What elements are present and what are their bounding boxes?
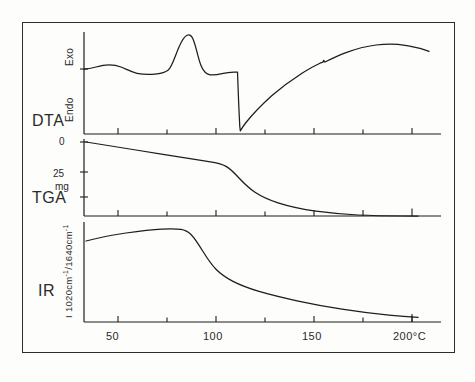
panel-label-ir: IR bbox=[38, 282, 55, 300]
ir-axis-symbol: I 1020cm bbox=[63, 277, 74, 318]
dta-x-ticks bbox=[118, 128, 412, 134]
tga-axis-unit-mg: mg bbox=[55, 181, 69, 192]
ir-axis-label: I 1020cm-1/1640cm-1 bbox=[62, 224, 74, 318]
tga-panel bbox=[80, 139, 441, 216]
x-tick-label-50: 50 bbox=[106, 330, 119, 342]
x-tick-label-150: 150 bbox=[302, 330, 322, 342]
dta-axis-label-endo: Endo bbox=[64, 97, 75, 122]
x-tick-label-200: 200°C bbox=[393, 330, 426, 342]
tga-tick-label-0: 0 bbox=[59, 136, 65, 147]
dta-panel bbox=[80, 32, 441, 134]
ir-axis-denominator: /1640cm bbox=[63, 231, 74, 270]
ir-panel bbox=[84, 222, 441, 322]
ir-curve bbox=[86, 229, 418, 318]
dta-curve bbox=[84, 35, 429, 131]
panel-label-dta: DTA bbox=[32, 112, 64, 130]
figure-root: DTA TGA IR Exo Endo 0 25 mg I 1020cm-1/1… bbox=[0, 0, 475, 382]
ir-axis-superscript-1: -1 bbox=[62, 270, 69, 277]
ir-axis-superscript-2: -1 bbox=[62, 224, 69, 231]
tga-tick-label-25: 25 bbox=[53, 168, 64, 179]
tga-curve bbox=[86, 142, 418, 216]
ir-x-ticks bbox=[118, 316, 412, 322]
dta-axis-label-exo: Exo bbox=[64, 48, 75, 66]
x-tick-label-100: 100 bbox=[203, 330, 223, 342]
